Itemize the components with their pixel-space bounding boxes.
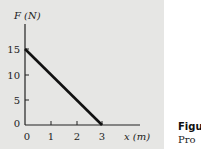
figure-caption-text: Pro	[178, 134, 196, 145]
ytick-5: 5	[14, 95, 20, 106]
force-displacement-chart: F (N) 15 10 5 0 0 1 2 3 x (m)	[0, 0, 201, 149]
xtick-0: 0	[24, 131, 30, 142]
xtick-3: 3	[99, 131, 105, 142]
ytick-15: 15	[7, 44, 20, 55]
x-axis-label: x (m)	[124, 131, 150, 142]
figure-caption-label: Figu	[178, 121, 201, 132]
xtick-2: 2	[74, 131, 80, 142]
y-axis-label: F (N)	[13, 10, 41, 21]
ytick-10: 10	[7, 70, 20, 81]
ytick-0: 0	[14, 118, 20, 129]
xtick-1: 1	[48, 131, 54, 142]
force-line	[25, 49, 102, 125]
